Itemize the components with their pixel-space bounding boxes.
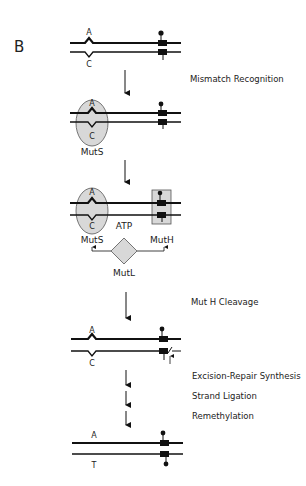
base-label-a: A bbox=[91, 431, 97, 440]
step-mismatch-recognition: Mismatch Recognition bbox=[190, 74, 284, 84]
step-muth-cleavage: Mut H Cleavage bbox=[191, 297, 258, 307]
methyl-group-icon bbox=[158, 191, 163, 196]
base-label-t: T bbox=[91, 461, 97, 470]
methyl-group-icon bbox=[159, 102, 164, 107]
stage-4-cleaved: A C bbox=[71, 326, 181, 368]
muth-label: MutH bbox=[150, 235, 174, 245]
mutl-label: MutL bbox=[113, 268, 135, 278]
base-label-a: A bbox=[86, 28, 92, 37]
base-label-c: C bbox=[89, 132, 95, 141]
nick-site bbox=[168, 347, 181, 353]
step-strand-ligation: Strand Ligation bbox=[192, 391, 257, 401]
methyl-group-icon bbox=[160, 327, 165, 332]
atp-label: ATP bbox=[116, 221, 133, 231]
methyl-group-icon bbox=[161, 431, 166, 436]
muts-label: MutS bbox=[81, 235, 104, 245]
step-excision-repair: Excision-Repair Synthesis bbox=[192, 371, 301, 381]
base-label-c: C bbox=[86, 60, 92, 69]
mutl-to-muts-connector bbox=[92, 247, 111, 251]
stage-5-repaired: A T bbox=[72, 431, 183, 470]
step-remethylation: Remethylation bbox=[192, 411, 254, 421]
mismatch-repair-diagram: B A C Mismatch Recognition A C MutS A C bbox=[0, 0, 306, 486]
base-label-a: A bbox=[89, 188, 95, 197]
stage-3-complex: A C ATP MutS MutH MutL bbox=[70, 188, 181, 278]
base-label-c: C bbox=[89, 222, 95, 231]
muts-label: MutS bbox=[81, 147, 104, 157]
methyl-group-icon bbox=[158, 30, 163, 35]
panel-label: B bbox=[14, 38, 24, 56]
methyl-group-icon bbox=[164, 462, 169, 467]
base-label-c: C bbox=[89, 359, 95, 368]
stage-2-muts-bound: A C MutS bbox=[70, 99, 181, 157]
gatc-site-bottom bbox=[158, 49, 167, 55]
mutl-shape bbox=[111, 238, 137, 264]
stage-1-heteroduplex: A C bbox=[70, 28, 181, 69]
gatc-site-top bbox=[158, 40, 167, 46]
mutl-to-muth-connector bbox=[137, 247, 164, 251]
